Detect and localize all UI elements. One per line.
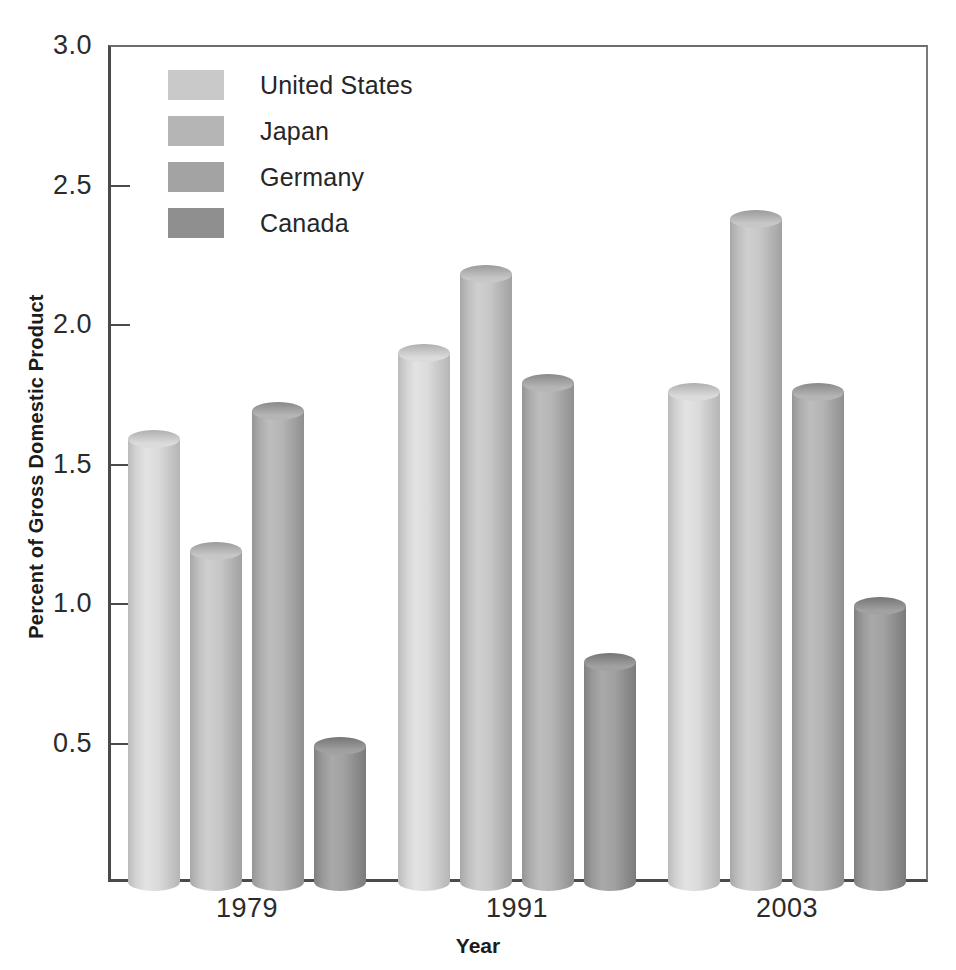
legend-label: Japan xyxy=(260,117,329,146)
bar xyxy=(730,210,782,882)
bar-top-ellipse xyxy=(398,344,450,362)
bar-top-ellipse xyxy=(730,210,782,228)
bar-cylinder-body xyxy=(460,274,512,882)
legend-swatch xyxy=(168,70,224,100)
legend-label: Germany xyxy=(260,163,364,192)
x-axis-tick-label: 1979 xyxy=(128,893,366,924)
x-axis-tick-label: 1991 xyxy=(398,893,636,924)
bar xyxy=(792,383,844,882)
y-axis-tick xyxy=(108,324,130,326)
y-axis-tick-label: 1.0 xyxy=(28,588,92,619)
bar-top-ellipse xyxy=(668,383,720,401)
bar-top-ellipse xyxy=(252,402,304,420)
bar-top-ellipse xyxy=(128,430,180,448)
legend-swatch xyxy=(168,116,224,146)
y-axis-tick-label: 2.0 xyxy=(28,309,92,340)
bar-top-ellipse xyxy=(792,383,844,401)
legend-label: United States xyxy=(260,71,413,100)
bar-top-ellipse xyxy=(190,542,242,560)
legend-swatch xyxy=(168,162,224,192)
bar xyxy=(398,344,450,882)
legend-item: Canada xyxy=(168,200,413,246)
y-axis-tick-label: 2.5 xyxy=(28,169,92,200)
y-axis-tick xyxy=(108,603,130,605)
legend-label: Canada xyxy=(260,209,349,238)
legend-item: Germany xyxy=(168,154,413,200)
bar-cylinder-body xyxy=(314,746,366,882)
bar-cylinder-body xyxy=(398,353,450,882)
bar-cylinder-body xyxy=(668,392,720,882)
bar-cylinder-body xyxy=(190,551,242,882)
bar-cylinder-body xyxy=(730,219,782,882)
y-axis-tick xyxy=(108,185,130,187)
chart-canvas: Percent of Gross Domestic Product 0.51.0… xyxy=(0,0,956,970)
bar xyxy=(460,265,512,882)
x-axis-tick-label: 2003 xyxy=(668,893,906,924)
bar xyxy=(854,597,906,882)
bar xyxy=(668,383,720,882)
bar xyxy=(128,430,180,882)
y-axis-tick-label: 1.5 xyxy=(28,448,92,479)
x-axis-title: Year xyxy=(0,934,956,958)
bar xyxy=(314,737,366,882)
bar-cylinder-body xyxy=(522,383,574,882)
y-axis-tick xyxy=(108,464,130,466)
legend-swatch xyxy=(168,208,224,238)
legend: United StatesJapanGermanyCanada xyxy=(168,62,413,246)
legend-item: United States xyxy=(168,62,413,108)
bar-cylinder-body xyxy=(792,392,844,882)
y-axis-tick-label: 0.5 xyxy=(28,727,92,758)
bar xyxy=(190,542,242,882)
bar-cylinder-body xyxy=(854,606,906,882)
legend-item: Japan xyxy=(168,108,413,154)
bar-cylinder-body xyxy=(584,662,636,882)
bar xyxy=(522,374,574,882)
bar-cylinder-body xyxy=(128,439,180,882)
bar xyxy=(252,402,304,882)
bar-cylinder-body xyxy=(252,411,304,882)
y-axis-tick-label: 3.0 xyxy=(28,30,92,61)
bar-top-ellipse xyxy=(314,737,366,755)
bar xyxy=(584,653,636,882)
y-axis-tick xyxy=(108,743,130,745)
